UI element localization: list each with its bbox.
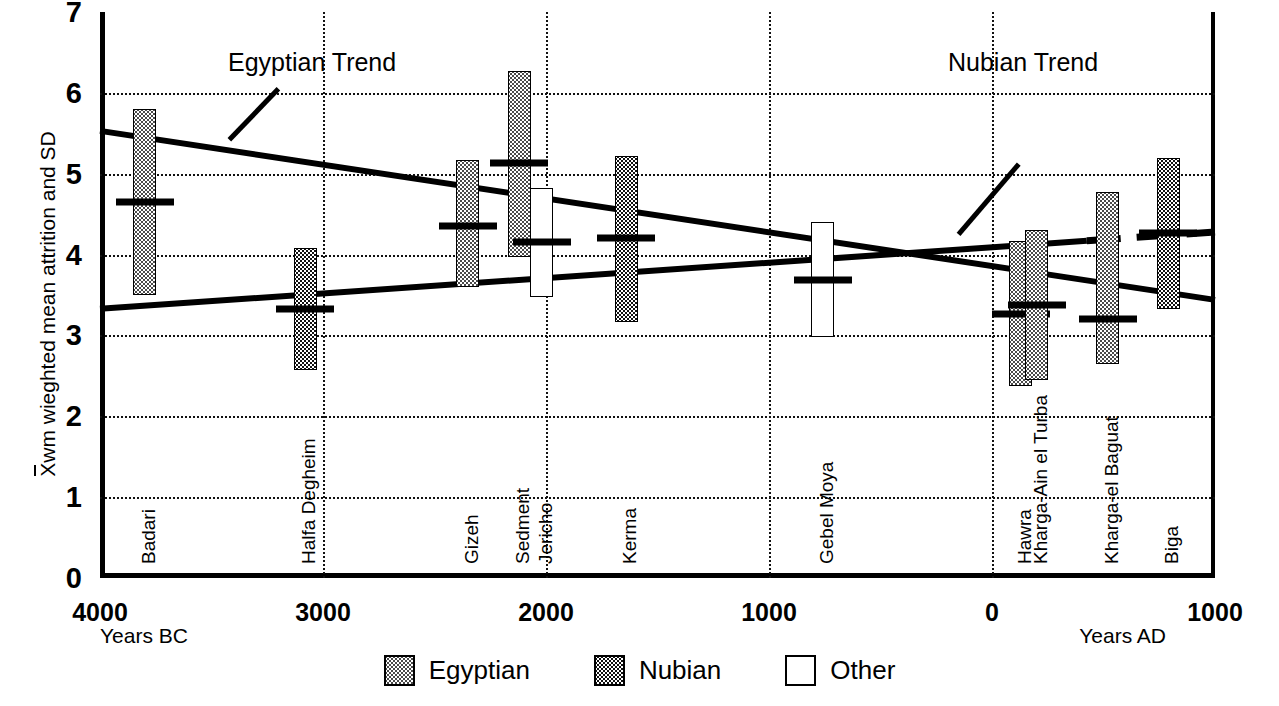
legend-label-egyptian: Egyptian <box>429 655 530 686</box>
site-label-halfa-degheim: Halfa Degheim <box>298 438 320 564</box>
legend-swatch-other <box>785 655 816 686</box>
mean-tick-gebel-moya <box>794 277 852 284</box>
trend-line-egyptian-trend-tail <box>1042 274 1215 300</box>
x-tick-label-0-ad: 0 <box>985 598 999 627</box>
mean-tick-gizeh <box>439 223 497 230</box>
mean-tick-halfa-degheim <box>276 305 334 312</box>
site-label-kharga-el-baguat: Kharga-el Baguat <box>1101 416 1123 564</box>
bar-kharga-el-baguat <box>1096 192 1119 364</box>
y-tick-label-3: 3 <box>38 321 82 350</box>
legend-item-egyptian: Egyptian <box>384 655 530 686</box>
x-tick-label-4000-bc: 4000 <box>72 598 128 627</box>
legend-label-other: Other <box>830 655 895 686</box>
chart-root: Xwm wieghted mean attrition and SD 01234… <box>0 0 1279 706</box>
site-label-badari: Badari <box>138 509 160 564</box>
mean-tick-sedment <box>490 160 548 167</box>
site-label-biga: Biga <box>1161 526 1183 564</box>
y-tick-label-4: 4 <box>38 240 82 269</box>
annotation-egyptian-trend: Egyptian Trend <box>228 48 396 77</box>
x-axis-label-right: Years AD <box>1079 624 1166 648</box>
site-label-kerma: Kerma <box>619 508 641 564</box>
legend: EgyptianNubianOther <box>0 655 1279 686</box>
mean-tick-biga <box>1139 229 1197 236</box>
y-tick-label-7: 7 <box>38 0 82 27</box>
legend-item-nubian: Nubian <box>594 655 721 686</box>
site-label-jericho: Jericho <box>535 503 557 564</box>
legend-swatch-egyptian <box>384 655 415 686</box>
annotation-nubian-trend: Nubian Trend <box>948 48 1098 77</box>
x-tick-label-3000-bc: 3000 <box>295 598 351 627</box>
annotation-leader-nubian-trend <box>959 164 1019 234</box>
x-axis-label-left: Years BC <box>100 624 188 648</box>
site-label-sedment: Sedment <box>512 488 534 564</box>
trend-line-nubian-trend-solid <box>100 241 1087 309</box>
mean-tick-kharga-ain-el-turba <box>1008 301 1066 308</box>
annotation-leader-egyptian-trend <box>229 89 278 140</box>
mean-tick-badari <box>116 199 174 206</box>
y-tick-label-2: 2 <box>38 402 82 431</box>
x-tick-label-1000-bc: 1000 <box>741 598 797 627</box>
site-label-gizeh: Gizeh <box>461 514 483 564</box>
legend-swatch-nubian <box>594 655 625 686</box>
y-tick-label-5: 5 <box>38 159 82 188</box>
mean-tick-kharga-el-baguat <box>1079 316 1137 323</box>
x-tick-label-2000-bc: 2000 <box>518 598 574 627</box>
site-label-gebel-moya: Gebel Moya <box>816 462 838 564</box>
y-axis-title-overline-char: X <box>36 463 60 477</box>
y-tick-label-1: 1 <box>38 483 82 512</box>
legend-label-nubian: Nubian <box>639 655 721 686</box>
mean-tick-kerma <box>597 235 655 242</box>
y-tick-label-0: 0 <box>38 564 82 593</box>
y-tick-label-6: 6 <box>38 78 82 107</box>
site-label-kharga-ain-el-turba: Kharga-Ain el Turba <box>1030 395 1052 564</box>
mean-tick-jericho <box>513 239 571 246</box>
x-tick-label-1000-ad: 1000 <box>1187 598 1243 627</box>
plot-area: 01234567 BadariHalfa DegheimGizehSedment… <box>100 12 1215 578</box>
legend-item-other: Other <box>785 655 895 686</box>
